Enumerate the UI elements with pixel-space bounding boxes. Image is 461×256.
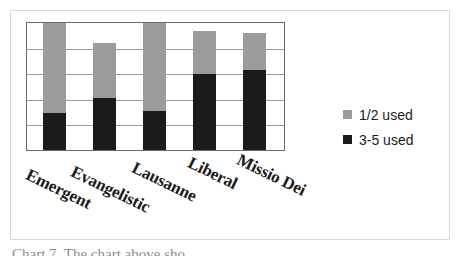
legend-label: 3-5 used	[359, 133, 413, 147]
legend-item-1-2-used[interactable]: 1/2 used	[343, 104, 413, 125]
bar-segment-1-2-used	[143, 23, 166, 111]
bar-segment-1-2-used	[43, 23, 66, 113]
legend-item-3-5-used[interactable]: 3-5 used	[343, 129, 413, 150]
bar-evangelistic[interactable]	[93, 43, 116, 150]
bars-layer	[27, 23, 284, 150]
figure-caption: Chart 7. The chart above sho	[12, 246, 442, 256]
bar-liberal[interactable]	[193, 31, 216, 151]
bar-segment-3-5-used	[193, 74, 216, 150]
bar-segment-3-5-used	[93, 98, 116, 150]
bar-emergent[interactable]	[43, 23, 66, 150]
legend-label: 1/2 used	[359, 108, 413, 122]
legend-swatch-gray-icon	[343, 110, 352, 119]
bar-segment-1-2-used	[243, 33, 266, 70]
bar-segment-3-5-used	[243, 70, 266, 150]
plot-area	[26, 22, 285, 151]
chart-legend: 1/2 used 3-5 used	[343, 104, 413, 154]
bar-segment-3-5-used	[43, 113, 66, 150]
chart-page: Emergent Evangelistic Lausanne Liberal M…	[0, 0, 461, 256]
bar-lausanne[interactable]	[143, 23, 166, 150]
bar-segment-3-5-used	[143, 111, 166, 150]
bar-segment-1-2-used	[93, 43, 116, 98]
legend-swatch-black-icon	[343, 135, 352, 144]
bar-segment-1-2-used	[193, 31, 216, 74]
bar-missio-dei[interactable]	[243, 33, 266, 150]
